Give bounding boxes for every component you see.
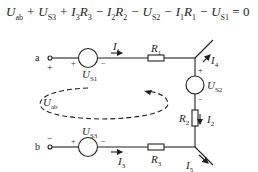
us2-minus: − (198, 96, 203, 104)
us3-plus: + (71, 138, 76, 146)
us2-plus: + (198, 67, 203, 75)
us1-minus: − (101, 60, 106, 68)
i5-label: I5 (186, 160, 193, 172)
us2-label: US2 (207, 80, 222, 94)
us3-label: US3 (82, 126, 97, 140)
i4-label: I4 (211, 55, 218, 69)
branch-i5 (195, 147, 213, 165)
i3-label: I3 (118, 156, 125, 170)
us1-label: US1 (82, 69, 97, 83)
us1-plus: + (71, 60, 76, 68)
r2-label: R2 (179, 113, 189, 127)
i2-label: I2 (207, 114, 214, 128)
node-b-polarity: − (47, 134, 53, 144)
r1-label: R1 (151, 43, 161, 57)
i1-label: I1 (113, 41, 120, 55)
arrow-i4 (203, 55, 210, 62)
node-a-polarity: + (47, 63, 53, 73)
resistor-r2 (192, 110, 198, 126)
node-a-label: a (35, 53, 39, 63)
source-us1 (79, 49, 98, 68)
resistor-r3 (148, 144, 164, 150)
terminal-a (48, 56, 52, 60)
source-us2 (186, 76, 204, 94)
terminal-b (48, 145, 52, 149)
source-us3 (79, 138, 98, 157)
uab-label: Uab (43, 97, 58, 111)
node-b-label: b (35, 142, 40, 152)
loop-arrow-icon (144, 90, 152, 95)
us3-minus: − (101, 138, 106, 146)
r3-label: R3 (151, 154, 161, 168)
